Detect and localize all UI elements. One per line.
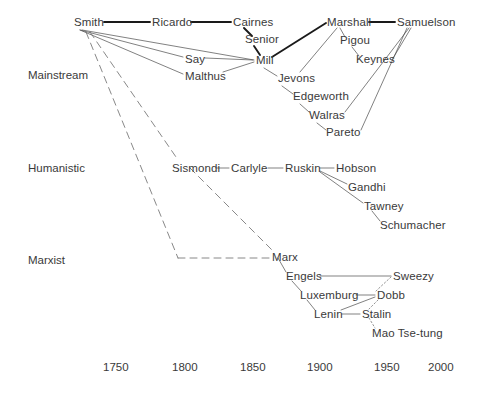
axis-tick-1950: 1950 (374, 361, 400, 373)
node-samuelson[interactable]: Samuelson (397, 16, 455, 28)
node-ruskin[interactable]: Ruskin (285, 162, 321, 174)
node-hobson[interactable]: Hobson (336, 162, 376, 174)
node-pigou[interactable]: Pigou (340, 34, 370, 46)
node-senior[interactable]: Senior (245, 33, 279, 45)
node-pareto[interactable]: Pareto (326, 126, 360, 138)
band-label-humanistic: Humanistic (28, 162, 85, 174)
node-edgeworth[interactable]: Edgeworth (293, 90, 349, 102)
node-engels[interactable]: Engels (286, 270, 322, 282)
axis-tick-1900: 1900 (307, 361, 333, 373)
edge-smith-malthus (80, 30, 183, 74)
node-marx[interactable]: Marx (272, 251, 298, 263)
axis-tick-1800: 1800 (172, 361, 198, 373)
node-mill[interactable]: Mill (256, 54, 274, 66)
band-label-marxist: Marxist (28, 254, 65, 266)
node-tawney[interactable]: Tawney (364, 200, 404, 212)
axis-tick-1850: 1850 (240, 361, 266, 373)
node-marshall[interactable]: Marshall (327, 16, 371, 28)
edge-smith-mill (82, 30, 254, 60)
node-luxemburg[interactable]: Luxemburg (300, 289, 358, 301)
node-keynes[interactable]: Keynes (356, 53, 395, 65)
node-sweezy[interactable]: Sweezy (393, 270, 434, 282)
node-dobb[interactable]: Dobb (377, 289, 405, 301)
node-cairnes[interactable]: Cairnes (233, 16, 273, 28)
node-gandhi[interactable]: Gandhi (348, 181, 386, 193)
node-carlyle[interactable]: Carlyle (231, 162, 268, 174)
axis-tick-1750: 1750 (103, 361, 129, 373)
edge-malthus-mill (223, 62, 254, 72)
edge-mill-jevons (264, 68, 277, 76)
node-lenin[interactable]: Lenin (314, 308, 343, 320)
node-say[interactable]: Say (185, 53, 205, 65)
node-schumacher[interactable]: Schumacher (380, 219, 446, 231)
edge-tawney-schumacher (372, 211, 380, 221)
band-label-mainstream: Mainstream (28, 69, 88, 81)
edge-mill-marshall (272, 23, 326, 57)
node-jevons[interactable]: Jevons (278, 72, 315, 84)
edge-jevons-edgeworth (282, 86, 293, 94)
node-sismondi[interactable]: Sismondi (172, 162, 220, 174)
node-walras[interactable]: Walras (309, 109, 345, 121)
edge-smith-sismondi (90, 32, 176, 157)
axis-tick-2000: 2000 (428, 361, 454, 373)
diagram-canvas: SmithRicardoCairnesSeniorSayMalthusMillJ… (0, 0, 487, 397)
node-stalin[interactable]: Stalin (362, 308, 391, 320)
edge-marshall-jevons (300, 28, 337, 72)
edge-edgeworth-walras (300, 104, 309, 112)
node-smith[interactable]: Smith (74, 16, 104, 28)
edge-smith-say (80, 30, 183, 57)
node-ricardo[interactable]: Ricardo (152, 16, 192, 28)
node-mao[interactable]: Mao Tse-tung (372, 327, 443, 339)
edge-sismondi-marx (190, 168, 272, 250)
node-malthus[interactable]: Malthus (185, 70, 226, 82)
edge-walras-pareto (317, 123, 326, 130)
